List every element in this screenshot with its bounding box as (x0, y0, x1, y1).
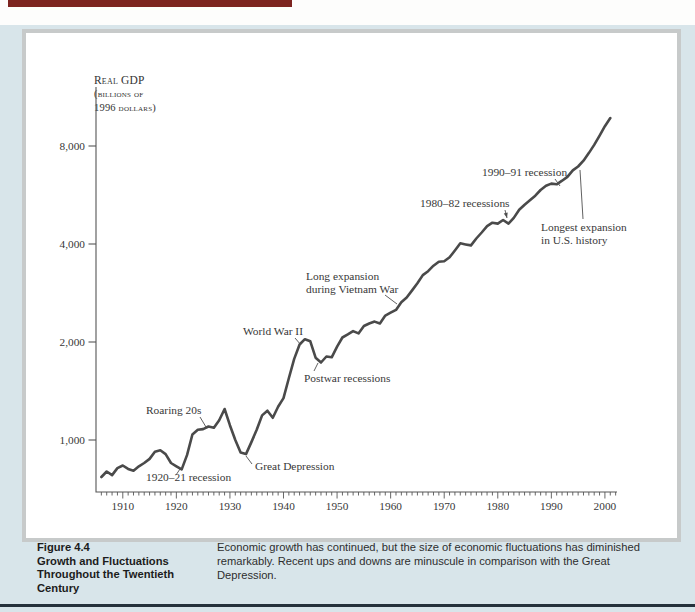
y-axis-title-line: (billions of (94, 87, 156, 101)
y-axis-title-line: Real GDP (94, 73, 156, 87)
y-axis-title: Real GDP (billions of 1996 dollars) (94, 73, 156, 115)
chart-box: Real GDP (billions of 1996 dollars) (22, 29, 681, 542)
figure-panel: Real GDP (billions of 1996 dollars) 1,00… (0, 25, 695, 612)
top-red-bar (8, 0, 292, 7)
figure-caption-body: Economic growth has continued, but the s… (217, 541, 669, 582)
figure-title-line: Growth and Fluctuations (37, 555, 212, 569)
bottom-rule (0, 604, 695, 607)
textbook-figure-page: Real GDP (billions of 1996 dollars) 1,00… (0, 0, 695, 612)
figure-title-line: Century (37, 582, 212, 596)
figure-title-line: Throughout the Twentieth (37, 568, 212, 582)
figure-number: Figure 4.4 (37, 541, 212, 555)
figure-caption-title: Figure 4.4 Growth and Fluctuations Throu… (37, 541, 212, 595)
y-axis-title-line: 1996 dollars) (94, 101, 156, 115)
